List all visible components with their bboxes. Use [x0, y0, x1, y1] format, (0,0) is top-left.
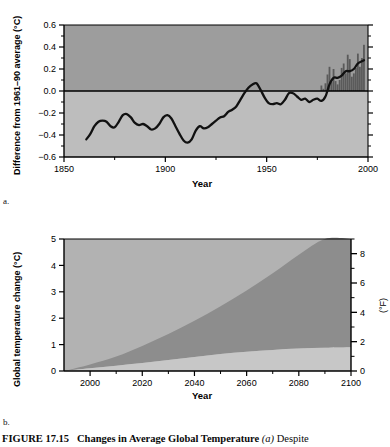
panel-a-ytick-label: 0.6 — [43, 20, 56, 30]
panel-b-right-ytick-label: 8 — [360, 249, 365, 259]
panel-a-xtick-label: 1950 — [257, 164, 277, 174]
panel-b-xtick-label: 2100 — [341, 378, 361, 388]
panel-b-ytick-label: 3 — [51, 287, 56, 297]
panel-b-ytick-label: 4 — [51, 261, 56, 271]
figure-container: Difference from 1961–90 average (°C) Yea… — [0, 0, 390, 447]
figure-number: FIGURE 17.15 — [2, 433, 69, 444]
panel-a-plot: −0.6−0.4−0.20.00.20.40.61850190019502000 — [0, 0, 390, 200]
panel-b-xtick-label: 2040 — [184, 378, 204, 388]
figure-title: Changes in Average Global Temperature — [77, 433, 259, 444]
panel-b-right-axis-label: (°F) — [378, 298, 388, 313]
panel-a-annual-bar — [341, 68, 343, 91]
panel-a-ytick-label: 0.2 — [43, 64, 56, 74]
panel-a-annual-bar — [349, 59, 351, 91]
panel-a-annual-bar — [351, 77, 353, 91]
panel-a-annual-bar — [347, 55, 349, 91]
panel-b-letter: b. — [3, 417, 10, 427]
panel-a-ytick-label: 0.4 — [43, 42, 56, 52]
panel-a-annual-bar — [361, 58, 363, 91]
panel-a-annual-bar — [335, 81, 337, 91]
panel-a-annual-bar — [325, 83, 327, 91]
panel-b-right-ytick-label: 2 — [360, 337, 365, 347]
panel-a-annual-bar — [359, 67, 361, 91]
panel-a-ytick-label: −0.4 — [38, 130, 56, 140]
panel-b-xtick-label: 2080 — [289, 378, 309, 388]
panel-b-xtick-label: 2060 — [237, 378, 257, 388]
chart-panel-a: Difference from 1961–90 average (°C) Yea… — [0, 0, 390, 200]
panel-b-right-ytick-label: 0 — [360, 366, 365, 376]
panel-b-ytick-label: 5 — [51, 234, 56, 244]
panel-a-annual-bar — [357, 54, 359, 91]
panel-b-x-axis-label: Year — [192, 390, 212, 401]
panel-b-ytick-label: 2 — [51, 313, 56, 323]
panel-a-annual-bar — [339, 80, 341, 91]
panel-a-letter: a. — [3, 196, 9, 206]
figure-caption-tail: Despite — [277, 433, 309, 444]
panel-b-xtick-label: 2000 — [80, 378, 100, 388]
panel-a-xtick-label: 2000 — [358, 164, 378, 174]
figure-sub-a: (a) — [262, 433, 274, 444]
panel-a-y-axis-label: Difference from 1961–90 average (°C) — [12, 16, 22, 175]
panel-a-xtick-label: 1850 — [54, 164, 74, 174]
panel-a-annual-bar — [363, 45, 365, 91]
panel-b-plot: 01234502468200020202040206020802100 — [0, 215, 390, 415]
panel-a-ytick-label: 0.0 — [43, 86, 56, 96]
panel-a-xtick-label: 1900 — [155, 164, 175, 174]
panel-a-annual-bar — [343, 64, 345, 92]
panel-b-xtick-label: 2020 — [132, 378, 152, 388]
panel-a-ytick-label: −0.2 — [38, 108, 56, 118]
panel-b-ytick-label: 1 — [51, 340, 56, 350]
chart-panel-b: Global temperature change (°C) (°F) Year… — [0, 215, 390, 415]
panel-a-x-axis-label: Year — [192, 178, 212, 189]
panel-a-annual-bar — [353, 73, 355, 91]
panel-a-annual-bar — [337, 84, 339, 91]
panel-b-ytick-label: 0 — [51, 366, 56, 376]
panel-a-annual-bar — [355, 68, 357, 91]
panel-a-annual-bar — [320, 86, 322, 92]
panel-b-right-ytick-label: 6 — [360, 278, 365, 288]
figure-caption: FIGURE 17.15 Changes in Average Global T… — [2, 432, 390, 445]
panel-a-ytick-label: −0.6 — [38, 152, 56, 162]
panel-a-upper-bg — [64, 25, 368, 91]
panel-b-y-axis-label: Global temperature change (°C) — [12, 252, 22, 387]
panel-b-right-ytick-label: 4 — [360, 308, 365, 318]
panel-a-annual-bar — [345, 73, 347, 91]
